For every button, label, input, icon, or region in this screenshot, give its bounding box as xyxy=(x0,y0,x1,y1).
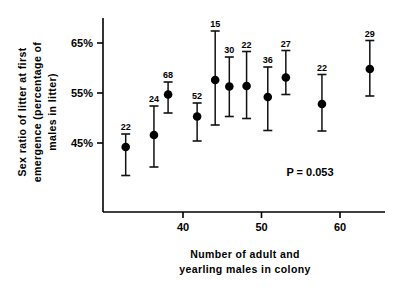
data-point-marker xyxy=(193,112,202,121)
sample-size-label: 30 xyxy=(224,45,234,55)
y-axis-title-line-1: Sex ratio of litter at first xyxy=(16,47,28,176)
data-point: 22 xyxy=(242,40,252,119)
data-point-marker xyxy=(318,100,327,109)
data-point-marker xyxy=(150,131,159,140)
x-tick-label: 50 xyxy=(255,221,267,233)
sample-size-label: 24 xyxy=(149,94,159,104)
data-point-marker xyxy=(263,93,272,102)
chart-figure: 45%55%65% 405060 2224685215302236272229 … xyxy=(0,0,393,288)
data-point-marker xyxy=(211,76,220,85)
y-tick-label: 65% xyxy=(71,37,93,49)
data-point-marker xyxy=(366,65,375,74)
sample-size-label: 22 xyxy=(317,63,327,73)
x-tick-group: 405060 xyxy=(177,212,346,233)
sample-size-label: 36 xyxy=(263,55,273,65)
data-point-marker xyxy=(225,82,234,91)
data-point-marker xyxy=(121,143,130,152)
data-point: 27 xyxy=(281,39,291,95)
sample-size-label: 68 xyxy=(163,70,173,80)
data-point-marker xyxy=(164,90,173,99)
sample-size-label: 29 xyxy=(365,29,375,39)
sample-size-label: 15 xyxy=(210,19,220,29)
data-point: 68 xyxy=(163,70,173,113)
data-point-marker xyxy=(242,82,251,91)
sample-size-label: 22 xyxy=(121,122,131,132)
x-tick-label: 60 xyxy=(334,221,346,233)
y-tick-label: 45% xyxy=(71,137,93,149)
y-tick-label: 55% xyxy=(71,87,93,99)
data-point: 15 xyxy=(210,19,220,125)
y-axis-title-line-2: emergence (percentage of xyxy=(31,42,43,182)
sample-size-label: 27 xyxy=(281,39,291,49)
scatter-plot-svg: 45%55%65% 405060 2224685215302236272229 … xyxy=(0,0,393,288)
data-point-group: 2224685215302236272229 xyxy=(121,19,375,176)
x-axis-title-line-1: Number of adult and xyxy=(190,248,300,260)
y-axis-title-line-3: males in litter) xyxy=(46,73,58,151)
x-axis-title: Number of adult and yearling males in co… xyxy=(179,248,311,275)
x-tick-label: 40 xyxy=(177,221,189,233)
sample-size-label: 22 xyxy=(242,40,252,50)
y-axis-title: Sex ratio of litter at first emergence (… xyxy=(16,42,58,182)
sample-size-label: 52 xyxy=(192,91,202,101)
data-point: 30 xyxy=(224,45,234,117)
p-value-annotation: P = 0.053 xyxy=(286,166,333,178)
data-point: 22 xyxy=(121,122,131,176)
data-point: 22 xyxy=(317,63,327,132)
p-value-label: P = 0.053 xyxy=(286,166,333,178)
data-point-marker xyxy=(282,73,291,82)
y-tick-group: 45%55%65% xyxy=(71,37,103,149)
data-point: 52 xyxy=(192,91,202,141)
data-point: 24 xyxy=(149,94,159,167)
data-point: 36 xyxy=(263,55,273,131)
data-point: 29 xyxy=(365,29,375,97)
x-axis-title-line-2: yearling males in colony xyxy=(179,263,311,275)
